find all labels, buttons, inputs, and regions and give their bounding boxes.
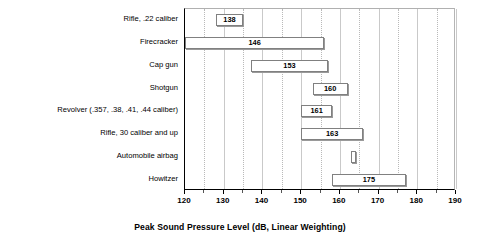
x-axis-tick-labels: 120130140150160170180190 bbox=[0, 196, 480, 208]
tick-major bbox=[184, 190, 185, 194]
tick-minor bbox=[203, 190, 204, 193]
category-label: Shotgun bbox=[0, 83, 178, 92]
x-axis-title: Peak Sound Pressure Level (dB, Linear We… bbox=[0, 222, 480, 232]
bar-value-label: 175 bbox=[333, 176, 405, 184]
category-label: Howitzer bbox=[0, 174, 178, 183]
bar-value-label: 160 bbox=[314, 85, 347, 93]
bar-row: 138 bbox=[185, 9, 454, 32]
x-tick-label: 190 bbox=[435, 196, 475, 205]
range-bar: 153 bbox=[251, 60, 328, 72]
peak-sound-pressure-chart: Rifle, .22 caliberFirecrackerCap gunShot… bbox=[0, 0, 480, 249]
range-bar: 175 bbox=[332, 174, 406, 186]
x-tick-label: 150 bbox=[280, 196, 320, 205]
range-bar: 160 bbox=[313, 83, 348, 95]
tick-minor bbox=[281, 190, 282, 193]
bar-value-label: 163 bbox=[302, 130, 362, 138]
bar-row: 163 bbox=[185, 123, 454, 146]
bar-row: 153 bbox=[185, 55, 454, 78]
tick-minor bbox=[358, 190, 359, 193]
x-axis-ticks bbox=[184, 190, 455, 195]
x-tick-label: 120 bbox=[164, 196, 204, 205]
tick-minor bbox=[397, 190, 398, 193]
tick-major bbox=[378, 190, 379, 194]
category-axis-labels: Rifle, .22 caliberFirecrackerCap gunShot… bbox=[0, 8, 182, 190]
category-label: Firecracker bbox=[0, 37, 178, 46]
x-tick-label: 170 bbox=[358, 196, 398, 205]
category-label: Cap gun bbox=[0, 60, 178, 69]
range-bar: 138 bbox=[216, 14, 243, 26]
tick-major bbox=[339, 190, 340, 194]
range-bar bbox=[351, 151, 356, 163]
x-tick-label: 130 bbox=[203, 196, 243, 205]
x-tick-label: 140 bbox=[241, 196, 281, 205]
range-bar: 146 bbox=[185, 37, 324, 49]
bar-row: 160 bbox=[185, 77, 454, 100]
bar-value-label: 161 bbox=[302, 107, 331, 115]
bar-row: 146 bbox=[185, 32, 454, 55]
bar-row bbox=[185, 146, 454, 169]
category-label: Automobile airbag bbox=[0, 151, 178, 160]
bar-value-label: 138 bbox=[217, 16, 242, 24]
plot-area: 138146153160161163175 bbox=[184, 8, 455, 190]
tick-major bbox=[416, 190, 417, 194]
bar-row: 161 bbox=[185, 100, 454, 123]
tick-major bbox=[223, 190, 224, 194]
x-tick-label: 180 bbox=[396, 196, 436, 205]
tick-major bbox=[261, 190, 262, 194]
tick-major bbox=[455, 190, 456, 194]
tick-major bbox=[300, 190, 301, 194]
tick-minor bbox=[320, 190, 321, 193]
category-label: Revolver (.357, .38, .41, .44 caliber) bbox=[0, 105, 178, 114]
bar-row: 175 bbox=[185, 168, 454, 191]
range-bar: 163 bbox=[301, 128, 363, 140]
bar-value-label: 146 bbox=[186, 39, 323, 47]
category-label: Rifle, 30 caliber and up bbox=[0, 128, 178, 137]
tick-minor bbox=[242, 190, 243, 193]
gridline-major bbox=[456, 9, 457, 189]
bar-value-label: 153 bbox=[252, 62, 327, 70]
x-tick-label: 160 bbox=[319, 196, 359, 205]
category-label: Rifle, .22 caliber bbox=[0, 14, 178, 23]
tick-minor bbox=[436, 190, 437, 193]
range-bar: 161 bbox=[301, 105, 332, 117]
